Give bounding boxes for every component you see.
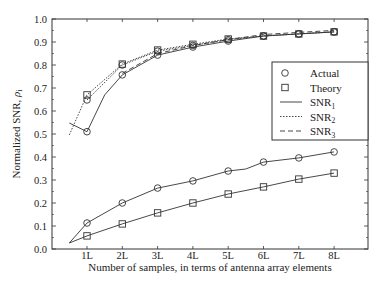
- legend-entry-label: Actual: [310, 67, 339, 79]
- y-tick-label: 1.0: [34, 14, 47, 25]
- y-tick-label: 0.4: [34, 152, 48, 163]
- y-axis-title: Normalized SNR, ρi: [10, 89, 24, 179]
- y-tick-label: 0.8: [34, 60, 47, 71]
- series-line: [69, 152, 334, 243]
- y-tick-label: 0.9: [34, 37, 47, 48]
- snr-chart: 0.00.10.20.30.40.50.60.70.80.91.01L2L3L4…: [0, 0, 388, 286]
- y-tick-label: 0.6: [34, 106, 47, 117]
- series-snr3-actual: [69, 149, 337, 243]
- x-tick-label: 1L: [81, 250, 93, 261]
- x-axis-title: Number of samples, in terms of antenna a…: [88, 261, 331, 273]
- y-tick-label: 0.0: [34, 244, 47, 255]
- x-tick-label: 4L: [187, 250, 199, 261]
- y-tick-label: 0.1: [34, 221, 47, 232]
- x-tick-label: 2L: [116, 250, 128, 261]
- y-tick-label: 0.2: [34, 198, 47, 209]
- y-tick-label: 0.5: [34, 129, 47, 140]
- x-tick-label: 5L: [222, 250, 234, 261]
- x-tick-label: 6L: [258, 250, 270, 261]
- legend: ActualTheorySNR1SNR2SNR3: [272, 62, 368, 140]
- x-tick-label: 7L: [293, 250, 305, 261]
- y-tick-label: 0.7: [34, 83, 47, 94]
- series-line: [69, 173, 334, 243]
- y-tick-label: 0.3: [34, 175, 47, 186]
- x-tick-label: 8L: [328, 250, 340, 261]
- legend-entry-label: Theory: [310, 82, 342, 94]
- series-snr3-theory: [69, 170, 337, 243]
- x-tick-label: 3L: [152, 250, 164, 261]
